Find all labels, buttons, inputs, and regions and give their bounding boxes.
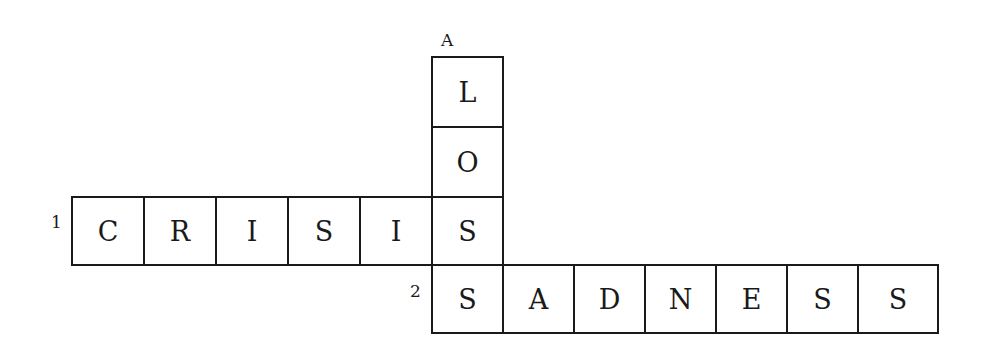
crossword-cell: I xyxy=(215,196,289,266)
crossword-cell: A xyxy=(502,264,575,334)
crossword-cell: C xyxy=(71,196,145,266)
crossword-cell: O xyxy=(431,126,504,198)
clue-label-down-a: A xyxy=(441,30,453,50)
clue-label-across-2: 2 xyxy=(410,281,421,301)
crossword-cell: N xyxy=(644,264,717,334)
crossword-cell: S xyxy=(786,264,859,334)
clue-label-across-1: 1 xyxy=(51,212,62,232)
crossword-cell: S xyxy=(431,196,504,266)
crossword-cell: R xyxy=(143,196,217,266)
crossword-cell: E xyxy=(715,264,788,334)
crossword-cell: S xyxy=(431,264,504,334)
crossword-cell: S xyxy=(287,196,361,266)
crossword-cell: S xyxy=(857,264,939,334)
crossword-cell: D xyxy=(573,264,646,334)
crossword-cell: L xyxy=(431,56,504,128)
crossword-cell: I xyxy=(359,196,433,266)
